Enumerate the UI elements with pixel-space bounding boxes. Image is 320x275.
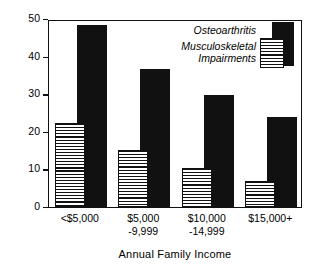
chart-legend: Osteoarthritis Musculoskeletal Impairmen… bbox=[178, 22, 298, 80]
legend-label-musculoskeletal: Musculoskeletal Impairments bbox=[181, 40, 256, 64]
y-axis-tick-label: 10 bbox=[28, 163, 40, 174]
legend-swatch-musculoskeletal bbox=[260, 38, 284, 68]
y-axis-tick-label: 30 bbox=[28, 88, 40, 99]
y-axis-tick-label: 20 bbox=[28, 126, 40, 137]
x-axis-category-label: <$5,000 bbox=[48, 212, 112, 225]
bar-musculoskeletal-impairments bbox=[245, 181, 275, 207]
x-axis-category-line2: -9,999 bbox=[112, 225, 176, 238]
y-axis-tick-label: 0 bbox=[34, 201, 40, 212]
bar-musculoskeletal-impairments bbox=[182, 168, 212, 207]
x-axis-category-line1: $5,000 bbox=[127, 212, 159, 224]
x-axis-category-line1: $15,000+ bbox=[248, 212, 292, 224]
x-axis-category-line2: -14,999 bbox=[175, 225, 239, 238]
y-axis-tick-label: 50 bbox=[28, 13, 40, 24]
legend-label-musculoskeletal-line1: Musculoskeletal bbox=[181, 40, 256, 52]
x-axis-title: Annual Family Income bbox=[48, 248, 302, 260]
bar-chart: Percent 01020304050 <$5,000$5,000-9,999$… bbox=[0, 0, 320, 275]
x-axis-category-label: $10,000-14,999 bbox=[175, 212, 239, 238]
x-axis-category-label: $15,000+ bbox=[239, 212, 303, 225]
x-axis-category-label: $5,000-9,999 bbox=[112, 212, 176, 238]
bar-musculoskeletal-impairments bbox=[55, 123, 85, 207]
x-axis-category-line1: $10,000 bbox=[188, 212, 226, 224]
x-axis-category-line1: <$5,000 bbox=[61, 212, 99, 224]
legend-label-osteoarthritis: Osteoarthritis bbox=[194, 24, 256, 36]
y-axis-tick-label: 40 bbox=[28, 51, 40, 62]
bar-musculoskeletal-impairments bbox=[118, 150, 148, 207]
legend-label-musculoskeletal-line2: Impairments bbox=[181, 52, 256, 64]
